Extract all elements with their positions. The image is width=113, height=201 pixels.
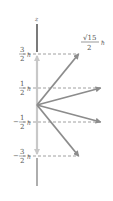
magnitude-unit: ħ: [101, 39, 105, 46]
level-numerator: 1: [20, 80, 24, 88]
level-numerator: 3: [20, 148, 24, 156]
level-numerator: 3: [20, 46, 24, 54]
level-unit: ħ: [27, 153, 31, 160]
level-label: 32ħ: [19, 46, 31, 63]
level-sign: −: [13, 152, 19, 160]
levels-group: 32ħ12ħ−12ħ−32ħ: [13, 46, 101, 165]
level-unit: ħ: [27, 51, 31, 58]
spin-vector: [37, 88, 101, 105]
magnitude-label: √15 2 ħ: [81, 34, 105, 52]
magnitude-denominator: 2: [87, 44, 91, 52]
level-denominator: 2: [20, 157, 24, 165]
level-sign: −: [13, 118, 19, 126]
level-label: −12ħ: [13, 114, 31, 131]
level-label: 12ħ: [19, 80, 31, 97]
level-numerator: 1: [20, 114, 24, 122]
level-denominator: 2: [20, 89, 24, 97]
spin-vector: [37, 105, 79, 156]
spin-vector: [37, 105, 101, 122]
level-label: −32ħ: [13, 148, 31, 165]
level-denominator: 2: [20, 55, 24, 63]
level-denominator: 2: [20, 123, 24, 131]
spin-vector: [37, 54, 79, 105]
vectors-group: [37, 54, 101, 156]
level-unit: ħ: [27, 85, 31, 92]
level-unit: ħ: [27, 119, 31, 126]
z-axis-label: z: [34, 15, 39, 22]
magnitude-numerator: √15: [83, 34, 96, 42]
spin-diagram: z 32ħ12ħ−12ħ−32ħ √15 2 ħ: [0, 0, 113, 201]
